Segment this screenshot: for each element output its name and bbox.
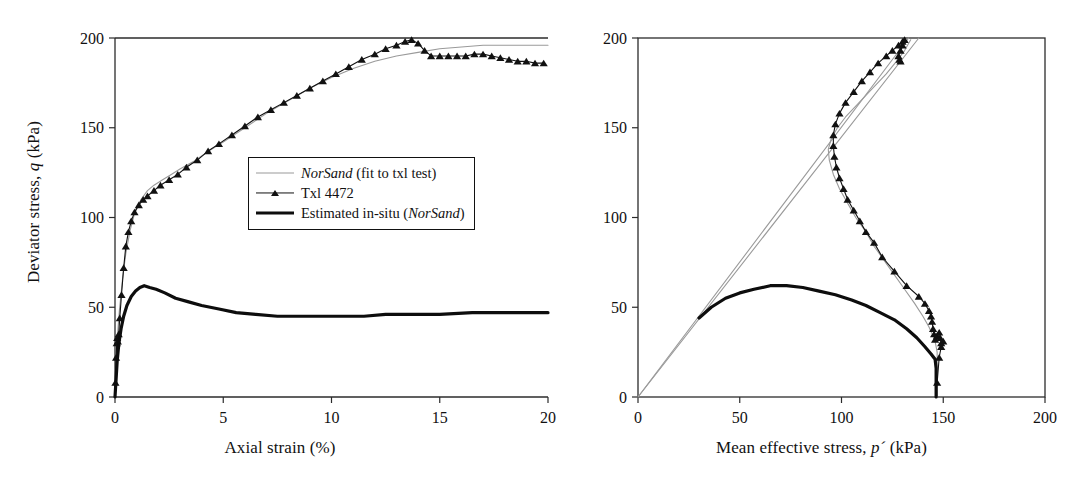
x-tick-label: 0 — [634, 409, 642, 426]
x-tick-label: 15 — [432, 409, 448, 426]
x-axis-symbol-right: p´ — [871, 438, 885, 457]
legend-label-insitu-rest: Estimated in-situ ( — [301, 205, 408, 221]
stress-strain-plot: 05010015020005101520 — [0, 0, 560, 480]
legend-item-txl4472: Txl 4472 — [256, 183, 465, 203]
x-tick-label: 10 — [324, 409, 340, 426]
x-tick-label: 100 — [830, 409, 854, 426]
y-axis-title-left: Deviator stress, q (kPa) — [24, 72, 44, 332]
x-tick-label: 0 — [111, 409, 119, 426]
legend-item-estimated-insitu: Estimated in-situ (NorSand) — [256, 203, 465, 223]
legend-label-insitu-emph: NorSand — [408, 205, 460, 221]
x-axis-title-text-right: Mean effective stress, — [716, 438, 867, 457]
x-tick-label: 150 — [931, 409, 955, 426]
y-tick-label: 0 — [619, 389, 627, 406]
series-thick-black-line — [115, 286, 548, 397]
y-tick-label: 150 — [603, 119, 627, 136]
legend-item-norsand: NorSand (fit to txl test) — [256, 163, 465, 183]
legend-label-norsand-rest: (fit to txl test) — [353, 165, 437, 181]
series-thick-black-line — [699, 286, 936, 397]
x-tick-label: 50 — [732, 409, 748, 426]
x-axis-title-right: Mean effective stress, p´ (kPa) — [560, 438, 1083, 458]
legend-label-norsand-emph: NorSand — [301, 165, 353, 181]
panel-stress-strain: 05010015020005101520 Deviator stress, q … — [0, 0, 560, 480]
legend-swatch-triangle-marker-line — [256, 187, 294, 199]
y-tick-label: 100 — [603, 209, 627, 226]
stress-path-plot: 050100150200050100150200 — [560, 0, 1083, 480]
axis-ticks: 050100150200050100150200 — [603, 30, 1057, 427]
y-tick-label: 200 — [603, 30, 627, 47]
y-tick-label: 50 — [611, 299, 627, 316]
y-axis-title-text: Deviator stress, — [24, 176, 43, 283]
x-axis-title-left: Axial strain (%) — [0, 438, 560, 458]
series-thin-grey-line — [638, 38, 919, 397]
panel-stress-path: 050100150200050100150200 Mean effective … — [560, 0, 1083, 480]
x-tick-label: 200 — [1033, 409, 1057, 426]
legend-swatch-thick-black-line — [256, 207, 294, 219]
series-line-with-triangle-markers — [829, 36, 947, 386]
legend-label-insitu-rest2: ) — [460, 205, 465, 221]
y-tick-label: 200 — [80, 30, 104, 47]
series-thin-grey-line — [638, 38, 909, 397]
x-axis-unit-right: (kPa) — [890, 438, 927, 457]
figure-container: 05010015020005101520 Deviator stress, q … — [0, 0, 1083, 480]
x-axis-title-text: Axial strain (%) — [224, 438, 335, 457]
y-axis-symbol: q — [24, 163, 43, 172]
x-tick-label: 5 — [219, 409, 227, 426]
axis-frame — [638, 38, 1045, 397]
legend-label-txl4472: Txl 4472 — [301, 183, 354, 203]
y-tick-label: 150 — [80, 119, 104, 136]
legend-label-norsand: NorSand (fit to txl test) — [301, 163, 436, 183]
legend-label-estimated-insitu: Estimated in-situ (NorSand) — [301, 203, 465, 223]
x-tick-label: 20 — [540, 409, 556, 426]
legend-swatch-thin-grey-line — [256, 167, 294, 179]
y-tick-label: 0 — [96, 389, 104, 406]
y-tick-label: 100 — [80, 209, 104, 226]
y-tick-label: 50 — [88, 299, 104, 316]
y-axis-unit: (kPa) — [24, 121, 43, 158]
legend: NorSand (fit to txl test) Txl 4472 Estim… — [248, 157, 475, 230]
